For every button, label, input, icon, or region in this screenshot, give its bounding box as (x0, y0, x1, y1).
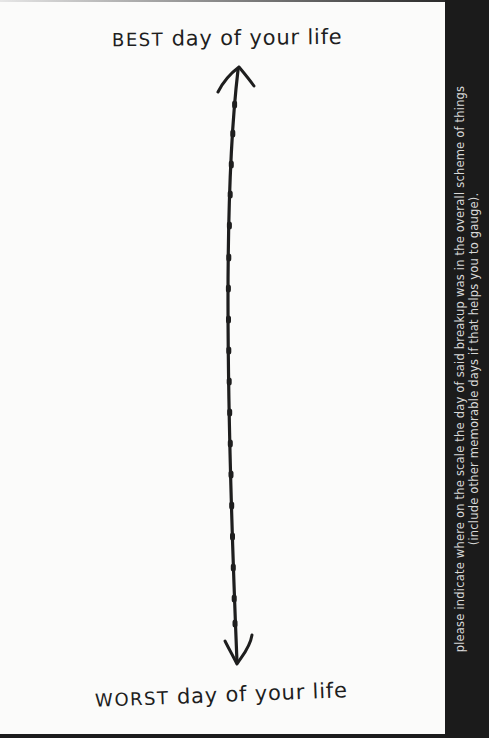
instructions-line-2: (include other memorable days if that he… (467, 19, 481, 719)
instructions-line-1: please indicate where on the scale the d… (453, 86, 467, 653)
life-scale-arrow[interactable] (0, 0, 445, 738)
scale-line[interactable] (228, 70, 238, 662)
worst-word: WORST (95, 687, 170, 711)
instructions-text: please indicate where on the scale the d… (453, 19, 481, 719)
arrow-down-icon (225, 635, 252, 664)
instructions-panel: please indicate where on the scale the d… (445, 0, 489, 738)
